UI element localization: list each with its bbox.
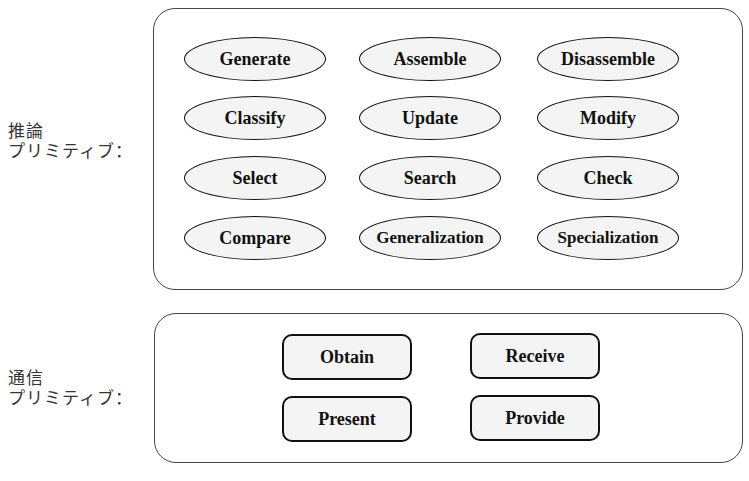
primitive-specialization: Specialization bbox=[537, 216, 679, 260]
primitive-obtain: Obtain bbox=[282, 334, 412, 380]
reasoning-label-line1: 推論 bbox=[8, 121, 133, 141]
reasoning-label-line2: プリミティブ： bbox=[8, 141, 133, 161]
communication-label-line2: プリミティブ： bbox=[8, 388, 133, 408]
primitive-generate: Generate bbox=[184, 37, 326, 81]
primitive-modify: Modify bbox=[537, 96, 679, 140]
primitive-receive: Receive bbox=[470, 333, 600, 379]
primitive-check: Check bbox=[537, 156, 679, 200]
communication-label-line1: 通信 bbox=[8, 368, 133, 388]
primitive-generalization: Generalization bbox=[359, 216, 501, 260]
primitive-compare: Compare bbox=[184, 216, 326, 260]
primitive-update: Update bbox=[359, 96, 501, 140]
primitive-present: Present bbox=[282, 396, 412, 442]
primitive-classify: Classify bbox=[184, 96, 326, 140]
primitive-provide: Provide bbox=[470, 395, 600, 441]
communication-primitives-box bbox=[154, 313, 743, 463]
primitive-disassemble: Disassemble bbox=[537, 37, 679, 81]
primitive-assemble: Assemble bbox=[359, 37, 501, 81]
primitive-select: Select bbox=[184, 156, 326, 200]
primitive-search: Search bbox=[359, 156, 501, 200]
reasoning-primitives-label: 推論 プリミティブ： bbox=[8, 121, 133, 161]
communication-primitives-label: 通信 プリミティブ： bbox=[8, 368, 133, 408]
